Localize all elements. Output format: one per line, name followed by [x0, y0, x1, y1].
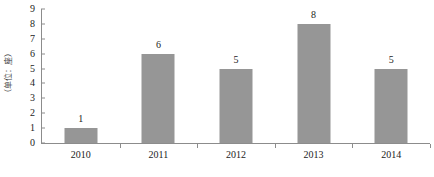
bar[interactable]	[219, 69, 252, 143]
y-axis-tick-mark	[41, 98, 45, 99]
bar[interactable]	[375, 69, 408, 143]
bar-value-label: 5	[233, 55, 238, 65]
y-axis-tick-label: 3	[30, 93, 35, 103]
y-axis-tick-label: 0	[30, 138, 35, 148]
y-axis-tick-mark	[41, 9, 45, 10]
bar-group: 1	[42, 9, 120, 143]
y-axis-tick-mark	[41, 113, 45, 114]
x-axis-tick-label: 2012	[226, 150, 246, 160]
y-axis-tick-label: 2	[30, 108, 35, 118]
y-axis-tick-label: 7	[30, 34, 35, 44]
y-axis-tick-mark	[41, 38, 45, 39]
x-axis-tick-mark	[120, 144, 121, 148]
y-axis-tick-mark	[41, 53, 45, 54]
x-axis-tick-label: 2014	[381, 150, 401, 160]
bar-group: 5	[197, 9, 275, 143]
x-axis-tick-mark	[430, 144, 431, 148]
bar-value-label: 1	[78, 114, 83, 124]
bar-chart: （单位：座） 0123456789 16585 2010201120122013…	[0, 0, 434, 177]
bar[interactable]	[142, 54, 175, 143]
y-axis-tick-mark	[41, 68, 45, 69]
bar[interactable]	[64, 128, 97, 143]
y-axis-tick-label: 5	[30, 64, 35, 74]
bar-group: 6	[120, 9, 198, 143]
x-axis-tick-label: 2010	[71, 150, 91, 160]
bar-group: 8	[275, 9, 353, 143]
bar-value-label: 8	[311, 10, 316, 20]
y-axis-title-text: （单位：座）	[5, 49, 13, 97]
y-axis-tick-mark	[41, 128, 45, 129]
y-axis-tick-label: 8	[30, 19, 35, 29]
y-axis-tick-label: 1	[30, 123, 35, 133]
x-axis-tick-label: 2013	[304, 150, 324, 160]
x-axis-tick-mark	[352, 144, 353, 148]
bar-value-label: 6	[156, 40, 161, 50]
y-axis-title: （单位：座）	[0, 0, 18, 145]
y-axis-tick-mark	[41, 23, 45, 24]
y-axis-tick-label: 9	[30, 4, 35, 14]
x-axis-tick-mark	[197, 144, 198, 148]
bar-group: 5	[352, 9, 430, 143]
y-axis-tick-label: 6	[30, 49, 35, 59]
x-axis-tick-labels: 20102011201220132014	[42, 150, 430, 170]
y-axis-tick-labels: 0123456789	[18, 6, 38, 143]
x-axis-tick-mark	[275, 144, 276, 148]
x-axis-line	[41, 143, 430, 144]
x-axis-tick-label: 2011	[149, 150, 169, 160]
y-axis-tick-mark	[41, 83, 45, 84]
bar[interactable]	[297, 24, 330, 143]
plot-area: 16585	[42, 9, 430, 143]
bar-value-label: 5	[389, 55, 394, 65]
y-axis-tick-mark	[41, 143, 45, 144]
y-axis-tick-label: 4	[30, 78, 35, 88]
